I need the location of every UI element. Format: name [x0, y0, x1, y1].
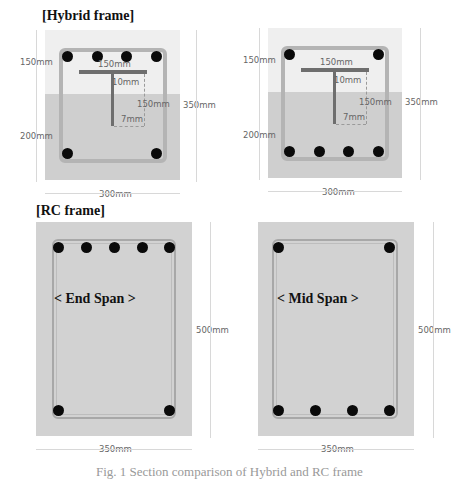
rc-frame-title: [RC frame]: [36, 203, 105, 219]
rebar-bottom: [151, 148, 162, 159]
rebar-bottom: [273, 405, 284, 416]
web-depth-guide: [114, 126, 144, 127]
rebar-bottom: [53, 405, 64, 416]
hybrid-frame-title: [Hybrid frame]: [42, 8, 134, 24]
web-depth-label: 150mm: [359, 97, 392, 107]
rebar-top: [137, 242, 148, 253]
dim-line: [433, 222, 434, 438]
dim-line: [210, 222, 211, 438]
rc-height-label: 500mm: [418, 325, 451, 335]
rebar-bottom: [310, 405, 321, 416]
stirrup: [52, 239, 176, 419]
width-label: 300mm: [322, 187, 355, 197]
rebar-bottom: [373, 146, 384, 157]
rebar-top: [81, 242, 92, 253]
rebar-top: [62, 51, 73, 62]
web-thickness-label: 7mm: [121, 114, 143, 124]
dim-line: [268, 191, 402, 192]
rebar-top: [109, 242, 120, 253]
flange-width-label: 150mm: [320, 57, 353, 67]
rebar-top: [384, 242, 395, 253]
web-thickness-label: 7mm: [343, 112, 365, 122]
dim-line: [36, 449, 192, 450]
rc-mid-span-section: < Mid Span >: [258, 222, 414, 436]
rebar-top: [53, 242, 64, 253]
stirrup: [272, 239, 398, 419]
rebar-bottom: [314, 146, 325, 157]
dim-line: [258, 449, 414, 450]
dim-line: [259, 28, 260, 180]
figure-caption: Fig. 1 Section comparison of Hybrid and …: [96, 464, 363, 480]
rebar-bottom: [164, 405, 175, 416]
rebar-bottom: [347, 405, 358, 416]
hybrid-end-section: 150mm 10mm 150mm 7mm: [45, 30, 180, 180]
web-depth-guide: [336, 124, 366, 125]
rebar-top: [164, 242, 175, 253]
flange-thickness-label: 10mm: [112, 77, 139, 87]
dim-line: [36, 30, 37, 182]
rebar-bottom: [62, 148, 73, 159]
rebar-top: [151, 51, 162, 62]
hybrid-mid-section: 150mm 10mm 150mm 7mm: [268, 28, 402, 178]
web-depth-label: 150mm: [137, 99, 170, 109]
dim-line: [45, 193, 180, 194]
rebar-top: [373, 49, 384, 60]
rebar-bottom: [343, 146, 354, 157]
end-span-label: < End Span >: [54, 291, 136, 307]
total-height-label: 350mm: [183, 100, 216, 110]
rebar-top: [273, 242, 284, 253]
rc-height-label: 500mm: [196, 325, 229, 335]
flange-thickness-label: 10mm: [334, 75, 361, 85]
rebar-bottom: [384, 405, 395, 416]
rebar-top: [284, 49, 295, 60]
rebar-bottom: [284, 146, 295, 157]
dim-line: [420, 28, 421, 180]
total-height-label: 350mm: [405, 97, 438, 107]
flange-width-label: 150mm: [98, 59, 131, 69]
dim-line: [196, 30, 197, 182]
width-label: 300mm: [99, 189, 132, 199]
mid-span-label: < Mid Span >: [277, 291, 359, 307]
rc-end-span-section: < End Span >: [36, 222, 192, 436]
